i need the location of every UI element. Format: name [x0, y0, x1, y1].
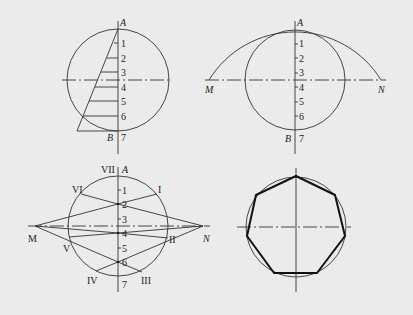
point-4: [117, 232, 120, 235]
label-A: A: [119, 17, 127, 28]
label-vertex-V: V: [63, 243, 71, 254]
label-1: 1: [121, 38, 126, 49]
label-vertex-III: III: [141, 275, 151, 286]
label-2: 2: [299, 53, 304, 64]
label-vertex-I: I: [158, 184, 161, 195]
figure-a: A B 1 2 3 4 5 6 7: [62, 17, 172, 154]
heptagon-construction-diagram: A B 1 2 3 4 5 6 7 A B M N 1 2 3 4 5 6 7: [0, 0, 413, 315]
label-B: B: [107, 132, 113, 143]
label-2: 2: [121, 53, 126, 64]
line-M-2: [35, 204, 118, 226]
label-4: 4: [121, 82, 126, 93]
label-5: 5: [299, 96, 304, 107]
label-3: 3: [121, 67, 126, 78]
label-7: 7: [122, 279, 127, 290]
label-3: 3: [299, 67, 304, 78]
label-7: 7: [121, 132, 126, 143]
label-vertex-II: II: [169, 234, 176, 245]
line-N-4: [118, 226, 203, 233]
label-1: 1: [299, 38, 304, 49]
label-A: A: [296, 17, 304, 28]
point-2: [117, 203, 120, 206]
line-2-VI: [81, 194, 118, 204]
label-6: 6: [299, 111, 304, 122]
label-7: 7: [299, 133, 304, 144]
label-N: N: [202, 233, 211, 244]
label-M: M: [28, 233, 37, 244]
label-vertex-VI: VI: [72, 184, 83, 195]
label-vertex-IV: IV: [87, 275, 98, 286]
label-1: 1: [122, 185, 127, 196]
label-B: B: [285, 133, 291, 144]
line-M-6: [35, 226, 118, 262]
line-6-IV: [96, 262, 118, 271]
label-3: 3: [122, 214, 127, 225]
figure-b: A B M N 1 2 3 4 5 6 7: [204, 17, 386, 154]
label-4: 4: [299, 82, 304, 93]
diagram-canvas: A B 1 2 3 4 5 6 7 A B M N 1 2 3 4 5 6 7: [0, 0, 413, 315]
line-N-2: [118, 204, 203, 226]
label-A: A: [121, 164, 129, 175]
line-4-V: [69, 233, 118, 237]
label-M: M: [204, 84, 214, 95]
label-2: 2: [122, 199, 127, 210]
label-5: 5: [122, 243, 127, 254]
label-vertex-VII: VII: [101, 164, 115, 175]
label-4: 4: [122, 228, 127, 239]
figure-d: [237, 168, 351, 292]
figure-c: A M N 1 2 3 4 5 6 7 I II III IV V VI VII: [28, 164, 211, 292]
label-N: N: [377, 84, 386, 95]
label-5: 5: [121, 96, 126, 107]
label-6: 6: [121, 111, 126, 122]
label-6: 6: [122, 257, 127, 268]
line-M-4: [35, 226, 118, 233]
line-N-6: [118, 226, 203, 262]
point-6: [117, 261, 120, 264]
